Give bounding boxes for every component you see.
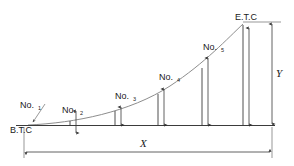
offset-label-1: No. (20, 100, 34, 110)
offset-label-3: No. (115, 91, 129, 101)
offset-sub-2: 2 (80, 110, 83, 116)
offset-label-2: No. (62, 105, 76, 115)
offset-sub-1: 1 (38, 105, 41, 111)
offset-sub-4: 4 (177, 77, 180, 83)
offset-sub-5: 5 (221, 47, 224, 53)
end-point-label: E.T.C (235, 12, 258, 22)
transition-curve-diagram: B.T.C E.T.C No. 1 No. 2 No. 3 No. 4 No. … (0, 0, 294, 166)
start-point-label: B.T.C (10, 125, 33, 135)
transition-curve-path (28, 24, 243, 125)
offset-sub-3: 3 (133, 96, 136, 102)
x-dimension-label: X (139, 137, 148, 149)
offset-label-5: No. (203, 42, 217, 52)
diagram-canvas: B.T.C E.T.C No. 1 No. 2 No. 3 No. 4 No. … (0, 0, 294, 166)
offset-label-4: No. (159, 72, 173, 82)
y-dimension-label: Y (276, 67, 284, 79)
